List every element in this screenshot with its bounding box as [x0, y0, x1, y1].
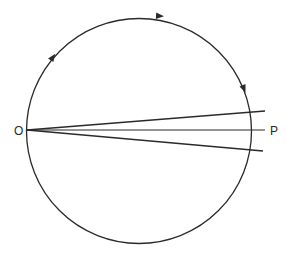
direction-arrow-upper-left — [48, 52, 58, 62]
lower-ray — [27, 130, 263, 151]
diagram-canvas: O P — [0, 0, 287, 257]
circular-path — [27, 19, 252, 244]
origin-label: O — [14, 124, 23, 138]
arrowhead-icon — [48, 52, 58, 62]
direction-arrow-top — [156, 13, 164, 20]
upper-ray — [27, 111, 265, 130]
arrowhead-icon — [156, 13, 164, 20]
target-label: P — [270, 124, 278, 138]
